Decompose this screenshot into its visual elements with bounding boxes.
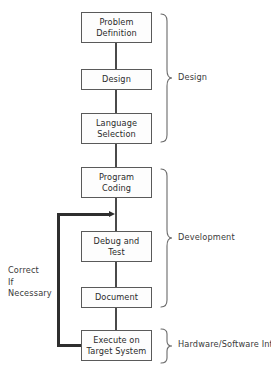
connector-document-to-execute xyxy=(115,307,117,331)
group-label-development: Development xyxy=(178,232,235,244)
feedback-loop-label-line3: Necessary xyxy=(8,288,52,300)
connector-coding-to-debug xyxy=(115,197,117,232)
node-debug-and-test[interactable]: Debug and Test xyxy=(81,231,152,262)
node-language-selection-line1: Language xyxy=(96,118,137,129)
group-label-integration-line2: Integration xyxy=(262,339,271,349)
feedback-loop-bottom-segment xyxy=(57,344,82,347)
node-problem-definition-line2: Definition xyxy=(96,28,137,39)
node-design[interactable]: Design xyxy=(81,69,152,90)
group-label-design: Design xyxy=(178,72,207,84)
node-document[interactable]: Document xyxy=(81,287,152,308)
connector-debug-to-document xyxy=(115,261,117,288)
brace-integration-phase xyxy=(159,328,173,364)
feedback-loop-arrowhead-icon xyxy=(109,211,115,217)
connector-language-to-coding xyxy=(115,143,117,168)
connector-design-to-language xyxy=(115,89,117,114)
node-execute-on-target-line2: Target System xyxy=(87,346,147,357)
brace-design-phase xyxy=(159,12,173,144)
node-problem-definition-line1: Problem xyxy=(99,17,133,28)
node-program-coding-line2: Coding xyxy=(102,183,131,194)
feedback-loop-label: Correct If Necessary xyxy=(8,265,52,300)
node-design-line1: Design xyxy=(102,74,131,85)
group-label-integration-line1: Hardware/Software xyxy=(178,339,259,349)
group-label-integration: Hardware/Software Integration xyxy=(178,339,271,351)
feedback-loop-label-line2: If xyxy=(8,277,52,289)
node-document-line1: Document xyxy=(95,292,138,303)
node-execute-on-target-line1: Execute on xyxy=(93,335,140,346)
brace-development-phase xyxy=(159,167,173,309)
node-debug-and-test-line2: Test xyxy=(108,247,125,258)
connector-problem-to-design xyxy=(115,42,117,70)
feedback-loop-label-line1: Correct xyxy=(8,265,52,277)
node-debug-and-test-line1: Debug and xyxy=(94,236,140,247)
flowchart-canvas: Correct If Necessary Problem Definition … xyxy=(0,0,271,379)
node-execute-on-target-system[interactable]: Execute on Target System xyxy=(81,330,152,361)
node-language-selection[interactable]: Language Selection xyxy=(81,113,152,144)
feedback-loop-top-segment xyxy=(57,213,111,216)
node-problem-definition[interactable]: Problem Definition xyxy=(81,12,152,43)
feedback-loop-left-segment xyxy=(57,213,60,347)
node-program-coding-line1: Program xyxy=(99,172,134,183)
node-program-coding[interactable]: Program Coding xyxy=(81,167,152,198)
node-language-selection-line2: Selection xyxy=(97,129,136,140)
